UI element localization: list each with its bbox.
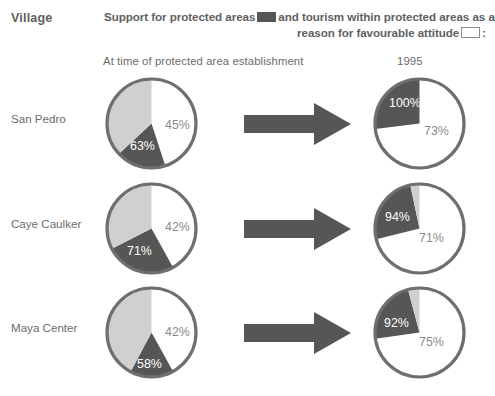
legend-attitude-text: reason for favourable attitude <box>297 26 459 39</box>
pie-value-label: 58% <box>137 357 162 371</box>
village-label: Maya Center <box>11 321 77 334</box>
arrow-shape <box>244 312 351 354</box>
pie-value-label: 71% <box>127 244 152 258</box>
pie-chart-after: 94%71% <box>371 180 468 277</box>
legend-line-1: Support for protected areasand tourism w… <box>104 9 486 25</box>
legend-and-text: and <box>278 10 298 23</box>
pie-value-label: 100% <box>389 96 421 110</box>
pie-value-label: 92% <box>384 316 409 330</box>
pie-chart-before: 45%63% <box>103 75 200 172</box>
pie-chart-before: 42%58% <box>103 284 200 381</box>
legend-colon: : <box>482 26 486 39</box>
pie-value-label: 63% <box>130 139 155 153</box>
legend-swatch-tourism <box>461 27 480 38</box>
transition-arrow-icon <box>244 207 352 251</box>
legend-line-2: reason for favourable attitude: <box>104 25 486 41</box>
pie-chart-before: 42%71% <box>103 180 200 277</box>
village-label: San Pedro <box>11 112 66 125</box>
transition-arrow-icon <box>244 311 352 355</box>
chart-header: Village Support for protected areasand t… <box>0 0 489 50</box>
pie-value-label: 73% <box>424 124 449 138</box>
transition-arrow-icon <box>244 102 352 146</box>
legend-support-text: Support for protected areas <box>104 10 255 23</box>
legend-swatch-support <box>257 12 276 22</box>
chart-row: Caye Caulker 42%71% 94%71% <box>0 177 489 280</box>
chart-row: Maya Center 42%58% 92%75% <box>0 281 489 384</box>
legend-title: Support for protected areasand tourism w… <box>104 9 486 40</box>
pie-value-label: 45% <box>165 118 190 132</box>
arrow-shape <box>244 103 351 145</box>
pie-value-label: 71% <box>419 231 444 245</box>
column-subheader-before: At time of protected area establishment <box>103 55 303 67</box>
legend-tourism-text: tourism within protected areas as a <box>302 10 495 23</box>
pie-chart-after: 100%73% <box>371 75 468 172</box>
village-label: Caye Caulker <box>11 217 81 230</box>
pie-value-label: 94% <box>385 210 410 224</box>
chart-row: San Pedro 45%63% 100%73% <box>0 72 489 175</box>
village-column-header: Village <box>11 11 52 25</box>
pie-chart-after: 92%75% <box>371 284 468 381</box>
pie-value-label: 42% <box>165 325 190 339</box>
arrow-shape <box>244 208 351 250</box>
pie-value-label: 75% <box>419 335 444 349</box>
column-subheader-after: 1995 <box>397 55 423 67</box>
pie-value-label: 42% <box>165 220 190 234</box>
